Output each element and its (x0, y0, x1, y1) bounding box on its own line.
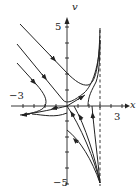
x-tick-left-label: −3 (9, 91, 24, 101)
y-axis (65, 17, 70, 184)
trajectory-top (20, 24, 100, 85)
trajectories (17, 24, 100, 183)
trajectory-left-upper (17, 63, 46, 115)
trajectory-inner-right (88, 40, 100, 106)
y-axis-label: v (72, 2, 78, 12)
y-tick-top-label: 5 (55, 22, 61, 32)
x-tick-right-label: 3 (114, 112, 120, 122)
trajectory-upper-middle (17, 40, 100, 102)
y-tick-bottom-label: −5 (53, 178, 68, 188)
x-axis-label: x (130, 100, 136, 110)
trajectory-lower-1 (67, 106, 100, 183)
trajectory-lower-4 (32, 113, 67, 116)
